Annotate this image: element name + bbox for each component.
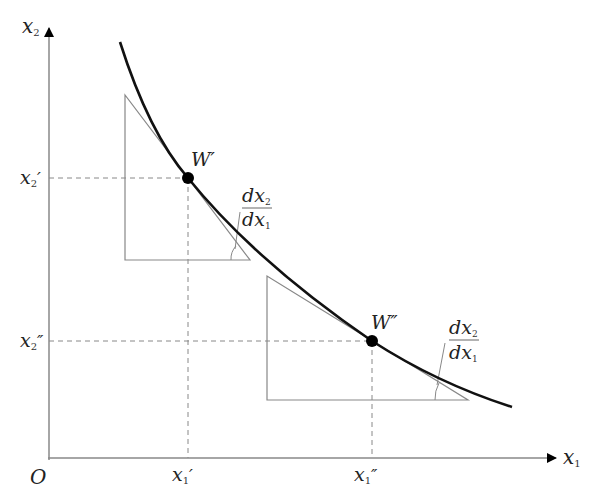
point-w-double-prime-label: W″	[371, 311, 398, 333]
svg-text:dx2: dx2	[449, 316, 478, 339]
x-tick-x1-prime: x1′	[172, 463, 193, 486]
indifference-curve-diagram: x2 x1 O W′ W″ x2′ x2″ x1′ x1″ dx2 dx1 dx…	[0, 0, 589, 502]
x-axis-label: x1	[563, 445, 581, 469]
y-axis-label: x2	[22, 14, 40, 38]
point-w-double-prime	[366, 335, 378, 347]
point-w-prime-label: W′	[191, 148, 216, 170]
x-tick-x1-double-prime: x1″	[354, 463, 378, 486]
svg-text:dx2: dx2	[242, 184, 271, 207]
y-tick-x2-prime: x2′	[20, 166, 41, 189]
y-tick-x2-double-prime: x2″	[20, 329, 44, 352]
slope-label-1: dx2 dx1	[242, 184, 272, 231]
slope-label-2: dx2 dx1	[449, 316, 479, 364]
point-w-prime	[182, 172, 194, 184]
origin-label: O	[30, 465, 46, 489]
svg-text:dx1: dx1	[449, 341, 478, 364]
angle-arc-2	[435, 383, 439, 400]
svg-text:dx1: dx1	[242, 208, 271, 231]
